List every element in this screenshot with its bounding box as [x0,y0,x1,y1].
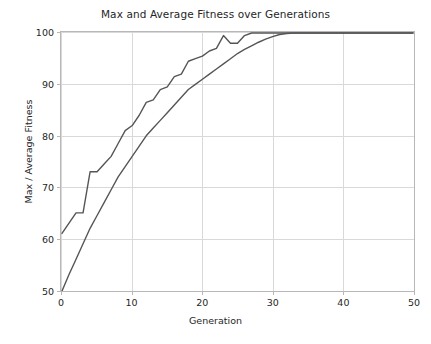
y-axis-label: Max / Average Fitness [23,62,34,242]
x-axis-label: Generation [0,315,431,326]
x-tick-label-10: 10 [117,297,147,308]
y-tickmark-100 [57,32,60,33]
y-tickmark-90 [57,84,60,85]
chart-curves [61,32,414,291]
plot-area [60,31,415,292]
x-tickmark-20 [202,292,203,295]
x-tick-label-50: 50 [399,297,429,308]
line-series-max-fitness [62,33,413,291]
chart-figure: Max and Average Fitness over Generations… [0,0,431,344]
x-axis-tick-labels: 01020304050 [0,297,431,313]
y-tick-label-50: 50 [26,286,54,297]
x-tickmark-30 [273,292,274,295]
x-tick-label-0: 0 [46,297,76,308]
y-tickmark-60 [57,239,60,240]
gridline-horizontal-50 [61,291,414,292]
y-tickmark-80 [57,136,60,137]
x-tick-label-40: 40 [328,297,358,308]
gridline-vertical-50 [414,32,415,291]
chart-title: Max and Average Fitness over Generations [0,8,431,20]
y-tickmark-50 [57,291,60,292]
x-tickmark-50 [414,292,415,295]
line-series-average-fitness [62,33,413,233]
x-tickmark-10 [132,292,133,295]
x-tickmark-0 [61,292,62,295]
x-tick-label-20: 20 [187,297,217,308]
y-tick-label-100: 100 [26,27,54,38]
x-tick-label-30: 30 [258,297,288,308]
y-tickmark-70 [57,187,60,188]
x-tickmark-40 [343,292,344,295]
